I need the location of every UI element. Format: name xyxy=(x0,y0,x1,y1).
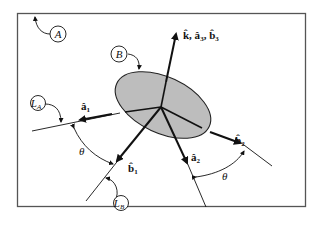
vector-a1-label: â1 xyxy=(81,100,91,114)
body-B-callout: B xyxy=(111,46,139,69)
vector-b1-label: b̂1 xyxy=(128,162,138,176)
frame-A-label: A xyxy=(54,28,62,40)
body-B-label: B xyxy=(116,48,123,60)
line-a2-extension xyxy=(186,160,206,207)
theta-right-label: θ xyxy=(222,170,228,182)
body-B-ellipse xyxy=(105,58,221,152)
line-LA-callout: LA xyxy=(30,96,61,123)
theta-right-arc xyxy=(196,151,244,177)
vector-a1-arrow xyxy=(80,114,112,120)
vector-b2-label: b̂2 xyxy=(235,134,245,148)
line-LB xyxy=(86,158,120,201)
vector-a2-label: â2 xyxy=(191,151,201,165)
rigid-body-frame-diagram: A B k̂, â3, b̂3 â1 b̂1 â2 b̂2 xyxy=(0,0,324,229)
vector-k-arrow xyxy=(166,34,176,82)
theta-left-label: θ xyxy=(79,145,85,157)
vector-k-a3-b3-label: k̂, â3, b̂3 xyxy=(183,29,219,43)
frame-A-callout: A xyxy=(35,17,66,42)
